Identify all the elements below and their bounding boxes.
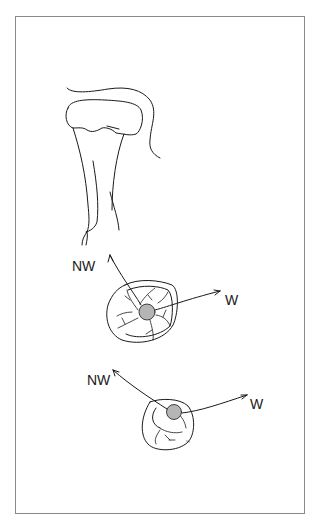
tooth-side-view	[66, 88, 160, 245]
illustration: sig	[0, 0, 317, 526]
tooth-occlusal-lower: sig	[142, 399, 193, 449]
label-w-upper: W	[225, 293, 238, 307]
label-nw-lower: NW	[87, 373, 110, 387]
cusp-stipple-lower	[167, 405, 182, 420]
arrow-w-lower-line	[182, 395, 247, 413]
arrow-nw-lower-line	[113, 370, 167, 409]
label-w-lower: W	[250, 397, 263, 411]
label-nw-upper: NW	[72, 259, 95, 273]
arrow-w-upper-line	[155, 291, 220, 310]
svg-text:sig: sig	[186, 439, 190, 443]
cusp-stipple-upper	[139, 304, 155, 320]
arrow-nw-upper-line	[110, 255, 141, 305]
